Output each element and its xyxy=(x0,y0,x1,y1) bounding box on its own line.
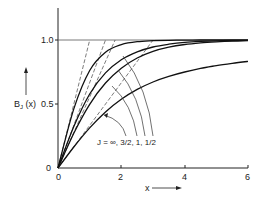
arc-j-inf xyxy=(104,115,126,136)
x-axis-label: x xyxy=(145,183,150,193)
y-tick-label-0.5: 0.5 xyxy=(41,99,54,109)
y-axis-label: BJ (x) xyxy=(14,99,36,110)
y-tick-label-0: 0 xyxy=(46,163,51,173)
y-arrowhead-icon xyxy=(24,67,28,73)
curve-annotation: J = ∞, 3/2, 1, 1/2 xyxy=(97,138,156,147)
x-tick-label-4: 4 xyxy=(182,172,187,182)
curves xyxy=(58,40,248,168)
annotation-arrowhead-icon xyxy=(104,113,108,118)
x-tick-label-0: 0 xyxy=(56,172,61,182)
arc-j-half xyxy=(123,56,153,136)
arc-j-1 xyxy=(118,70,145,136)
x-tick-label-2: 2 xyxy=(118,172,123,182)
y-tick-label-1.0: 1.0 xyxy=(41,35,54,45)
x-tick-label-6: 6 xyxy=(245,172,250,182)
x-arrowhead-icon xyxy=(176,186,182,190)
brillouin-chart: 1.0 0.5 0 0 2 4 6 BJ (x) x J = ∞, 3/2, 1… xyxy=(0,0,260,200)
curve-j-1-2 xyxy=(58,40,248,168)
